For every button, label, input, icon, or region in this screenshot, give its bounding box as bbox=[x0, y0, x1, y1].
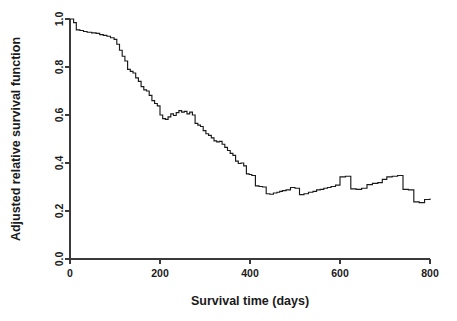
survival-curve-figure: 0.00.20.40.60.81.0 0200400600800 Surviva… bbox=[0, 0, 457, 321]
y-tick-label: 0.4 bbox=[53, 156, 65, 171]
y-tick-label: 0.2 bbox=[53, 204, 65, 219]
y-tick-label: 1.0 bbox=[53, 12, 65, 27]
x-axis-tick-labels: 0200400600800 bbox=[67, 267, 439, 279]
chart-canvas: 0.00.20.40.60.81.0 0200400600800 Surviva… bbox=[0, 0, 457, 321]
y-axis-tick-labels: 0.00.20.40.60.81.0 bbox=[53, 12, 65, 267]
x-tick-label: 400 bbox=[241, 267, 259, 279]
x-axis-ticks bbox=[70, 259, 430, 264]
x-tick-label: 800 bbox=[421, 267, 439, 279]
x-tick-label: 0 bbox=[67, 267, 73, 279]
x-tick-label: 200 bbox=[151, 267, 169, 279]
y-axis-ticks bbox=[65, 19, 70, 259]
x-axis-title: Survival time (days) bbox=[191, 294, 309, 308]
y-tick-label: 0.6 bbox=[53, 108, 65, 123]
y-tick-label: 0.0 bbox=[53, 252, 65, 267]
y-axis-title: Adjusted relative survival function bbox=[9, 37, 23, 241]
x-tick-label: 600 bbox=[331, 267, 349, 279]
survival-step-curve bbox=[70, 19, 430, 203]
y-tick-label: 0.8 bbox=[53, 60, 65, 75]
